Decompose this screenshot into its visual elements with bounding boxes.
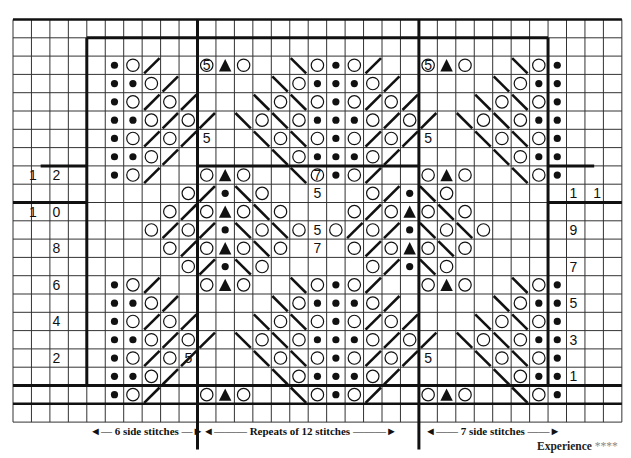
yarn-over-icon [293,151,305,163]
yarn-over-icon [145,114,157,126]
purl-dot-icon [222,226,229,233]
purl-dot-icon [332,391,339,398]
k2tog-icon [366,95,381,110]
purl-dot-icon [554,336,561,343]
ssk-icon [291,314,306,329]
yarn-over-icon [311,132,323,144]
yarn-over-icon [293,77,305,89]
row-number-right: 1 [570,368,584,384]
yarn-over-icon [274,205,286,217]
yarn-over-icon [274,242,286,254]
row-number-left: 1 0 [29,204,66,220]
stitch-count-number: 5 [424,57,432,73]
yarn-over-icon [348,315,360,327]
ssk-icon [291,388,306,403]
ssk-icon [512,95,527,110]
yarn-over-icon [274,315,286,327]
purl-dot-icon [535,153,542,160]
yarn-over-icon [182,260,194,272]
purl-dot-icon [314,373,321,380]
purl-dot-icon [554,153,561,160]
stitch-count-number: 5 [314,222,322,238]
ssk-icon [420,223,435,238]
yarn-over-icon [201,279,213,291]
sk2p-triangle-icon [219,389,231,401]
purl-dot-icon [535,336,542,343]
purl-dot-icon [351,373,358,380]
yarn-over-icon [514,151,526,163]
left-side-stitches-label: ◄— 6 side stitches —► [90,425,203,437]
repeat-label: ◄——— Repeats of 12 stitches ———► [203,425,397,437]
k2tog-icon [402,351,417,366]
k2tog-icon [144,278,159,293]
ssk-icon [272,113,287,128]
purl-dot-icon [129,373,136,380]
yarn-over-icon [164,242,176,254]
k2tog-icon [200,333,215,348]
stitch-count-number: 5 [184,350,192,366]
yarn-over-icon [256,334,268,346]
yarn-over-icon [127,59,139,71]
ssk-icon [254,314,269,329]
purl-dot-icon [129,300,136,307]
arrow-right-icon: ———► [353,425,397,437]
k2tog-icon [200,259,215,274]
purl-dot-icon [332,62,339,69]
arrow-right-icon: —► [182,425,204,437]
k2tog-icon [384,369,399,384]
purl-dot-icon [222,190,229,197]
row-number-right: 1 1 [570,185,607,201]
yarn-over-icon [237,59,249,71]
yarn-over-icon [459,205,471,217]
ssk-icon [438,205,453,220]
yarn-over-icon [201,169,213,181]
ssk-icon [235,333,250,348]
purl-dot-icon [554,98,561,105]
yarn-over-icon [237,279,249,291]
yarn-over-icon [422,279,434,291]
yarn-over-icon [440,224,452,236]
yarn-over-icon [201,242,213,254]
ssk-icon [475,351,490,366]
yarn-over-icon [533,315,545,327]
yarn-over-icon [182,224,194,236]
k2tog-icon [366,351,381,366]
ssk-icon [235,223,250,238]
experience-rating: Experience **** [537,440,618,452]
k2tog-icon [200,113,215,128]
purl-dot-icon [111,336,118,343]
stitch-count-number: 5 [424,130,432,146]
purl-dot-icon [111,171,118,178]
yarn-over-icon [385,352,397,364]
yarn-over-icon [367,151,379,163]
k2tog-icon [384,259,399,274]
sk2p-triangle-icon [440,389,452,401]
yarn-over-icon [533,96,545,108]
purl-dot-icon [351,80,358,87]
purl-dot-icon [314,117,321,124]
sk2p-triangle-icon [440,169,452,181]
stitch-count-number: 7 [314,167,322,183]
sk2p-triangle-icon [219,279,231,291]
yarn-over-icon [514,114,526,126]
ssk-icon [254,351,269,366]
ssk-icon [272,76,287,91]
purl-dot-icon [535,300,542,307]
yarn-over-icon [182,187,194,199]
ssk-icon [512,168,527,183]
yarn-over-icon [459,279,471,291]
yarn-over-icon [533,132,545,144]
purl-dot-icon [111,373,118,380]
ssk-icon [512,388,527,403]
row-number-left: 1 2 [29,167,66,183]
yarn-over-icon [164,132,176,144]
yarn-over-icon [514,370,526,382]
ssk-icon [254,95,269,110]
ssk-icon [235,113,250,128]
purl-dot-icon [535,117,542,124]
ssk-icon [457,333,472,348]
yarn-over-icon [330,224,342,236]
ssk-icon [475,131,490,146]
k2tog-icon [384,296,399,311]
k2tog-icon [163,369,178,384]
